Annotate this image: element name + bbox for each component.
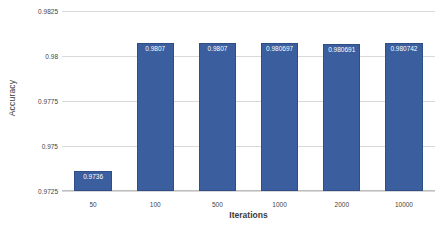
x-axis-tick-label: 100 [150,201,161,208]
bar-value-label: 0.980697 [266,46,293,53]
bar[interactable]: 0.9807 [199,43,236,191]
y-axis-tick-label: 0.9775 [38,98,58,105]
bar-slot: 0.9807 [124,11,186,191]
bar-chart: Accuracy 0.98250.980.97750.9750.9725 0.9… [0,0,439,233]
bar[interactable]: 0.980697 [261,43,298,191]
y-axis-tick-labels: 0.98250.980.97750.9750.9725 [20,0,62,196]
x-axis-tick-labels: 501005001000200010000 [62,193,435,211]
y-axis-title: Accuracy [4,0,20,196]
y-axis-tick-label: 0.975 [42,143,58,150]
y-axis-tick-label: 0.9725 [38,188,58,195]
gridline [62,191,435,192]
y-axis-tick-label: 0.9825 [38,8,58,15]
bar-slot: 0.980697 [249,11,311,191]
bar-value-label: 0.980691 [328,47,355,54]
bar-value-label: 0.9807 [145,46,165,53]
x-axis-tick-label: 500 [212,201,223,208]
plot-area: 0.97360.98070.98070.9806970.9806910.9807… [62,11,435,191]
y-axis-tick-label: 0.98 [45,53,58,60]
bar-value-label: 0.980742 [390,46,417,53]
bar-slot: 0.9807 [186,11,248,191]
y-axis-title-label: Accuracy [7,80,17,117]
bars-container: 0.97360.98070.98070.9806970.9806910.9807… [62,11,435,191]
bar-slot: 0.980691 [311,11,373,191]
x-tick-slot: 50 [62,193,124,211]
x-axis-tick-label: 50 [89,201,96,208]
x-tick-slot: 2000 [311,193,373,211]
x-axis-title: Iterations [62,210,435,220]
bar-slot: 0.980742 [373,11,435,191]
bar-value-label: 0.9736 [83,174,103,181]
x-tick-slot: 1000 [249,193,311,211]
bar[interactable]: 0.980691 [323,44,360,191]
x-axis-tick-label: 2000 [335,201,349,208]
x-tick-slot: 100 [124,193,186,211]
bar[interactable]: 0.980742 [385,43,422,191]
x-axis-tick-label: 1000 [272,201,286,208]
x-tick-slot: 500 [186,193,248,211]
bar-value-label: 0.9807 [207,46,227,53]
bar-slot: 0.9736 [62,11,124,191]
bar[interactable]: 0.9736 [74,171,111,191]
bar[interactable]: 0.9807 [137,43,174,191]
x-axis-tick-label: 10000 [395,201,413,208]
x-tick-slot: 10000 [373,193,435,211]
